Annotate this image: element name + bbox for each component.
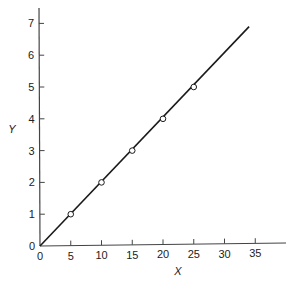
x-tick-label: 25 [188, 248, 200, 260]
x-tick-label: 0 [37, 250, 43, 262]
y-tick-label: 7 [28, 17, 34, 29]
scatter-chart: 0510152025303501234567 X Y [0, 0, 292, 286]
y-tick-label: 5 [28, 81, 34, 93]
y-axis [39, 8, 40, 246]
data-point-marker [129, 148, 135, 154]
x-tick-label: 20 [157, 248, 169, 260]
y-tick-label: 2 [29, 176, 35, 188]
x-tick-label: 5 [68, 250, 74, 262]
y-tick-label: 6 [28, 49, 34, 61]
x-tick-label: 35 [249, 247, 261, 259]
x-tick-label: 10 [95, 249, 107, 261]
axis-ticks: 0510152025303501234567 [28, 17, 261, 262]
y-tick-label: 1 [29, 208, 35, 220]
y-tick-label: 0 [29, 240, 35, 252]
y-tick-label: 3 [29, 145, 35, 157]
axes [39, 8, 286, 246]
x-tick-label: 15 [126, 249, 138, 261]
data-point-marker [191, 84, 197, 90]
y-tick-label: 4 [28, 113, 34, 125]
y-axis-title: Y [8, 123, 16, 135]
data-point-marker [99, 180, 105, 186]
x-axis-title: X [173, 265, 182, 277]
x-tick-label: 30 [218, 248, 230, 260]
data-point-marker [160, 116, 166, 122]
data-point-marker [68, 211, 74, 217]
